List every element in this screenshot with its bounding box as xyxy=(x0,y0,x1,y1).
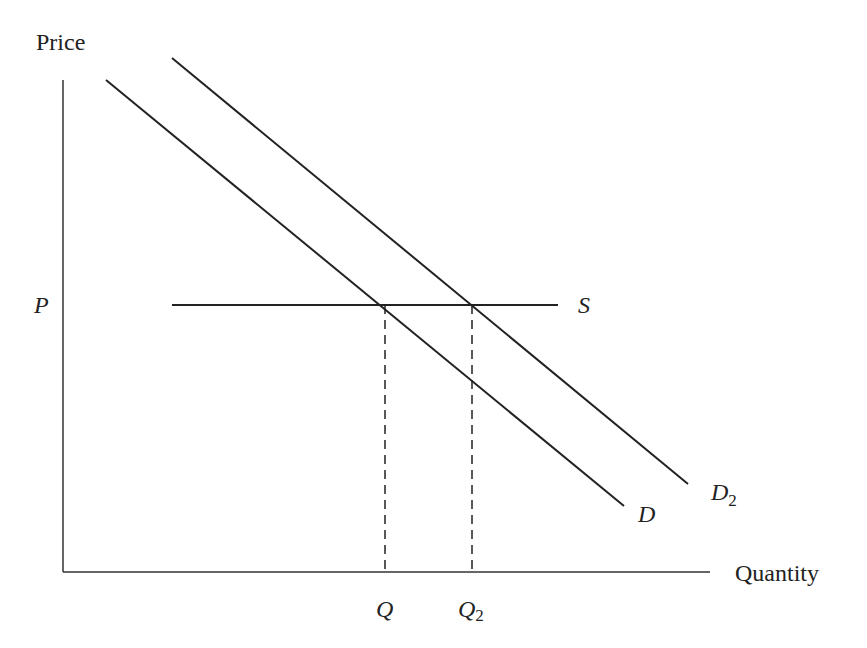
demand-curve-d2 xyxy=(172,58,688,484)
supply-demand-diagram: Price Quantity P S D D2 Q Q2 xyxy=(0,0,867,648)
demand2-label-sub: 2 xyxy=(728,491,737,510)
price-label-p: P xyxy=(33,292,49,318)
y-axis-label: Price xyxy=(36,29,85,55)
demand-curve-d xyxy=(106,80,624,506)
quantity2-label: Q2 xyxy=(458,596,484,625)
demand2-label: D2 xyxy=(710,479,737,510)
x-axis-label: Quantity xyxy=(735,560,819,586)
demand2-label-main: D xyxy=(710,479,728,505)
quantity-label-q: Q xyxy=(376,596,393,622)
quantity2-label-sub: 2 xyxy=(475,606,484,625)
supply-label-s: S xyxy=(578,292,590,318)
demand-label-d: D xyxy=(637,501,655,527)
quantity2-label-main: Q xyxy=(458,596,475,622)
